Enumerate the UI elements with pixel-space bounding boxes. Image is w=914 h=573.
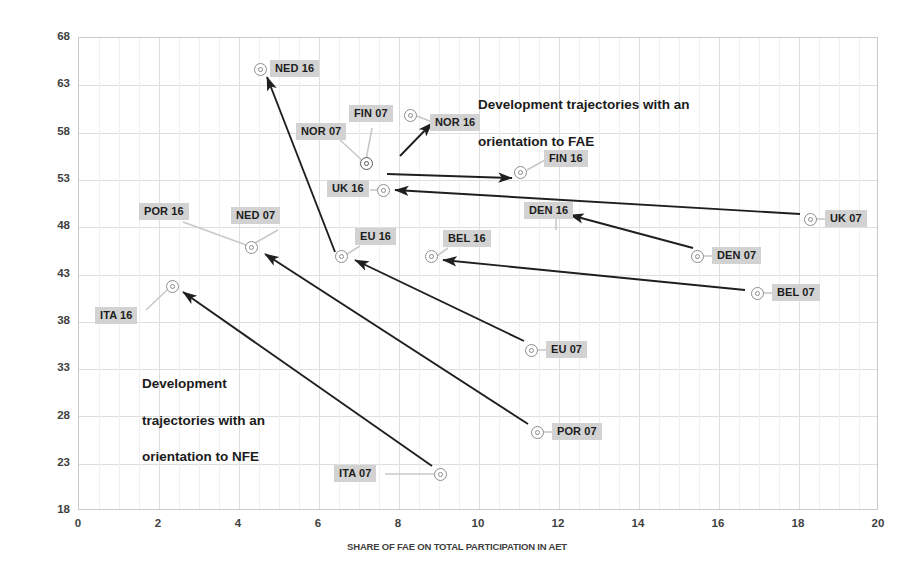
gridline-minor [859,38,860,509]
data-point-nor-16[interactable] [404,109,417,122]
data-label-uk-07[interactable]: UK 07 [825,210,867,227]
data-point-ita-16[interactable] [166,280,179,293]
gridline-minor [439,38,440,509]
data-point-ned-16[interactable] [254,63,267,76]
annotation-nfe-line1: Development [142,375,362,393]
data-point-ned-07-por-16[interactable] [245,241,258,254]
data-label-den-16[interactable]: DEN 16 [524,202,573,219]
gridline-minor [819,38,820,509]
data-label-bel-16[interactable]: BEL 16 [443,230,491,247]
y-tick-58: 58 [26,125,70,137]
y-tick-53: 53 [26,172,70,184]
x-tick-8: 8 [378,517,418,529]
data-label-ned-16[interactable]: NED 16 [270,60,319,77]
data-label-por-07[interactable]: POR 07 [552,423,602,440]
scatter-chart: 68 63 58 53 48 43 38 33 28 23 18 0 2 4 6… [0,0,914,573]
y-tick-18: 18 [26,503,70,515]
gridline-minor [839,38,840,509]
y-tick-63: 63 [26,77,70,89]
x-tick-20: 20 [858,517,898,529]
data-point-ita-07[interactable] [434,468,447,481]
data-point-uk-16[interactable] [377,184,390,197]
x-tick-4: 4 [218,517,258,529]
annotation-nfe-line2: trajectories with an [142,412,362,430]
data-label-fin-07[interactable]: FIN 07 [349,105,393,122]
y-tick-68: 68 [26,30,70,42]
y-tick-43: 43 [26,267,70,279]
data-point-eu-07[interactable] [525,344,538,357]
annotation-fae: Development trajectories with an orienta… [478,78,778,169]
data-point-bel-16[interactable] [425,250,438,263]
data-label-nor-07[interactable]: NOR 07 [296,123,346,140]
x-tick-14: 14 [618,517,658,529]
data-label-eu-07[interactable]: EU 07 [546,341,587,358]
data-label-den-07[interactable]: DEN 07 [712,247,761,264]
y-tick-38: 38 [26,314,70,326]
data-point-eu-16[interactable] [335,250,348,263]
annotation-fae-line1: Development trajectories with an [478,96,778,114]
y-tick-48: 48 [26,219,70,231]
data-label-nor-16[interactable]: NOR 16 [430,114,480,131]
annotation-nfe-line3: orientation to NFE [142,448,362,466]
gridline-minor [139,38,140,509]
x-tick-6: 6 [298,517,338,529]
gridline-x-8 [399,38,400,509]
gridline-x-18 [799,38,800,509]
x-tick-12: 12 [538,517,578,529]
gridline-minor [779,38,780,509]
gridline-minor [99,38,100,509]
x-axis-title: SHARE OF FAE ON TOTAL PARTICIPATION IN A… [0,541,914,552]
annotation-fae-line2: orientation to FAE [478,133,778,151]
data-label-ita-16[interactable]: ITA 16 [95,307,137,324]
x-tick-16: 16 [698,517,738,529]
data-point-fin-07-nor-07[interactable] [360,157,373,170]
gridline-minor [119,38,120,509]
data-point-bel-07[interactable] [751,287,764,300]
y-tick-23: 23 [26,456,70,468]
data-point-den-07[interactable] [691,250,704,263]
annotation-nfe: Development trajectories with an orienta… [142,357,362,485]
gridline-minor [459,38,460,509]
x-tick-18: 18 [778,517,818,529]
gridline-minor [419,38,420,509]
x-tick-10: 10 [458,517,498,529]
data-label-bel-07[interactable]: BEL 07 [772,284,820,301]
data-label-uk-16[interactable]: UK 16 [327,180,369,197]
x-tick-2: 2 [138,517,178,529]
data-point-por-07[interactable] [531,426,544,439]
data-label-por-16[interactable]: POR 16 [139,203,189,220]
x-tick-0: 0 [58,517,98,529]
data-label-ned-07[interactable]: NED 07 [231,207,280,224]
y-tick-33: 33 [26,361,70,373]
data-point-uk-07[interactable] [804,213,817,226]
data-label-eu-16[interactable]: EU 16 [355,228,396,245]
y-tick-28: 28 [26,409,70,421]
